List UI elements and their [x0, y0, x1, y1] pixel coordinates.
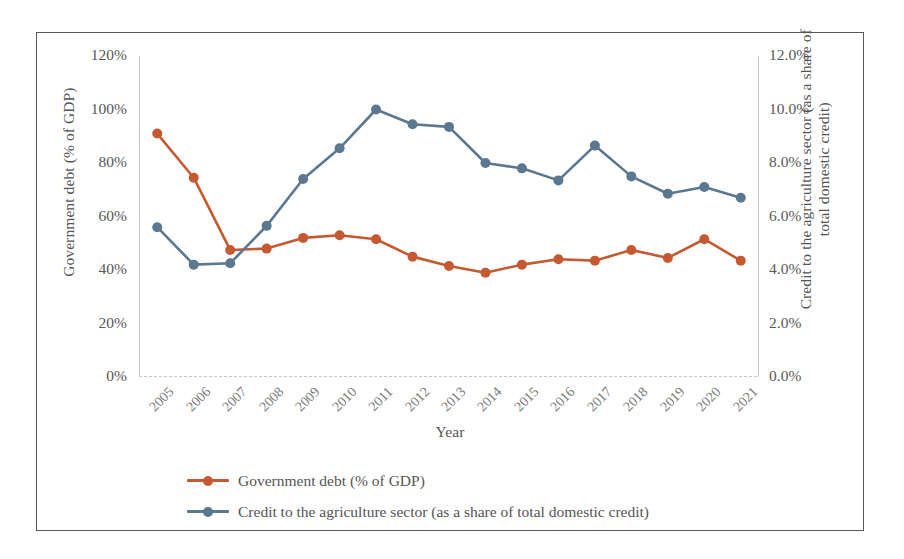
legend-swatch-icon	[187, 474, 229, 488]
data-point-marker	[262, 221, 272, 231]
y-axis-left-tick-label: 40%	[47, 260, 127, 278]
data-point-marker	[408, 119, 418, 129]
data-point-marker	[517, 260, 527, 270]
data-point-marker	[480, 158, 490, 168]
y-axis-right-tick-label: 8.0%	[769, 153, 849, 171]
data-point-marker	[152, 129, 162, 139]
data-point-marker	[189, 260, 199, 270]
data-point-marker	[335, 143, 345, 153]
data-point-marker	[736, 256, 746, 266]
data-point-marker	[626, 171, 636, 181]
data-point-marker	[444, 261, 454, 271]
data-point-marker	[335, 230, 345, 240]
data-point-marker	[189, 173, 199, 183]
y-axis-right-tick-label: 10.0%	[769, 100, 849, 118]
data-point-marker	[444, 122, 454, 132]
legend-label: Government debt (% of GDP)	[238, 472, 425, 490]
data-point-marker	[152, 222, 162, 232]
legend-swatch-icon	[187, 505, 229, 519]
data-point-marker	[663, 189, 673, 199]
chart-canvas	[139, 56, 759, 377]
chart-legend: Government debt (% of GDP)Credit to the …	[187, 465, 827, 527]
y-axis-left-tick-label: 60%	[47, 207, 127, 225]
data-point-marker	[736, 193, 746, 203]
data-point-marker	[517, 163, 527, 173]
y-axis-right-tick-label: 6.0%	[769, 207, 849, 225]
data-point-marker	[408, 252, 418, 262]
data-point-marker	[298, 174, 308, 184]
data-point-marker	[298, 233, 308, 243]
legend-item-0[interactable]: Government debt (% of GDP)	[187, 465, 827, 496]
data-point-marker	[371, 234, 381, 244]
series-line-1	[157, 110, 741, 265]
data-point-marker	[590, 141, 600, 151]
legend-label: Credit to the agriculture sector (as a s…	[238, 503, 649, 521]
y-axis-left-tick-label: 0%	[47, 367, 127, 385]
data-point-marker	[225, 258, 235, 268]
data-point-marker	[553, 254, 563, 264]
y-axis-left-tick-label: 100%	[47, 100, 127, 118]
y-axis-left-tick-label: 120%	[47, 46, 127, 64]
data-point-marker	[553, 175, 563, 185]
y-axis-right-tick-label: 2.0%	[769, 314, 849, 332]
data-point-marker	[626, 245, 636, 255]
data-point-marker	[590, 256, 600, 266]
y-axis-left-tick-label: 80%	[47, 153, 127, 171]
y-axis-right-tick-label: 4.0%	[769, 260, 849, 278]
legend-item-1[interactable]: Credit to the agriculture sector (as a s…	[187, 496, 827, 527]
data-point-marker	[699, 182, 709, 192]
y-axis-right-tick-label: 0.0%	[769, 367, 849, 385]
plot-area	[139, 56, 759, 377]
data-point-marker	[225, 245, 235, 255]
data-point-marker	[699, 234, 709, 244]
data-point-marker	[371, 105, 381, 115]
y-axis-left-title: Government debt (% of GDP)	[60, 42, 78, 322]
data-point-marker	[663, 253, 673, 263]
y-axis-left-tick-label: 20%	[47, 314, 127, 332]
series-line-0	[157, 134, 741, 273]
data-point-marker	[480, 268, 490, 278]
data-point-marker	[262, 244, 272, 254]
chart-figure: Government debt (% of GDP) Credit to the…	[36, 32, 864, 531]
y-axis-right-tick-label: 12.0%	[769, 46, 849, 64]
